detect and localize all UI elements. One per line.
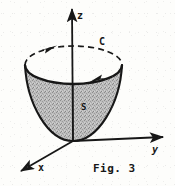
figure-3-diagram: z C S x y Fig. 3 [0,0,175,186]
surface-S-label: S [81,103,86,112]
z-axis-label: z [77,11,83,21]
figure-canvas [0,0,175,186]
curve-C [25,46,122,85]
curve-C-back-arc-dashed [25,46,122,65]
curve-C-arrowhead-upper [41,46,57,54]
y-axis-label: y [152,145,158,155]
curve-C-label: C [99,37,105,47]
x-axis-label: x [38,163,44,173]
z-axis [72,9,73,141]
x-axis [21,141,73,171]
figure-caption: Fig. 3 [93,163,136,174]
